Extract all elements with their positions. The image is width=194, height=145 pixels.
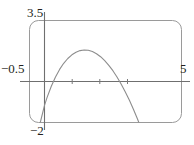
y-min-label: −2 [30, 124, 44, 137]
parabola-curve [36, 50, 142, 139]
x-max-label: 5 [180, 62, 187, 75]
y-max-label: 3.5 [27, 6, 43, 19]
x-min-label: −0.5 [1, 62, 25, 75]
graph-screenshot: 3.5 −0.5 −2 5 [0, 0, 194, 145]
viewing-window-frame [30, 21, 182, 123]
